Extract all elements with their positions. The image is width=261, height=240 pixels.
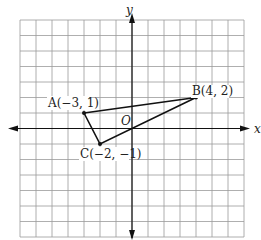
- axes: x y O: [8, 3, 261, 240]
- point-a: [82, 111, 86, 115]
- x-axis-label: x: [254, 122, 261, 136]
- point-c: [98, 142, 102, 146]
- x-axis-right-arrow-icon: [240, 126, 250, 132]
- coordinate-plane: x y O A(−3, 1) B(4, 2) C(−2, −1): [0, 0, 261, 240]
- y-axis-label: y: [125, 3, 133, 17]
- triangle-abc: A(−3, 1) B(4, 2) C(−2, −1): [47, 84, 233, 161]
- point-b-label: B(4, 2): [192, 84, 233, 98]
- point-a-label: A(−3, 1): [47, 96, 99, 110]
- point-c-label: C(−2, −1): [80, 147, 142, 161]
- origin-label: O: [121, 114, 131, 128]
- x-axis-left-arrow-icon: [8, 126, 18, 132]
- y-axis-down-arrow-icon: [129, 230, 135, 240]
- triangle: [84, 98, 196, 145]
